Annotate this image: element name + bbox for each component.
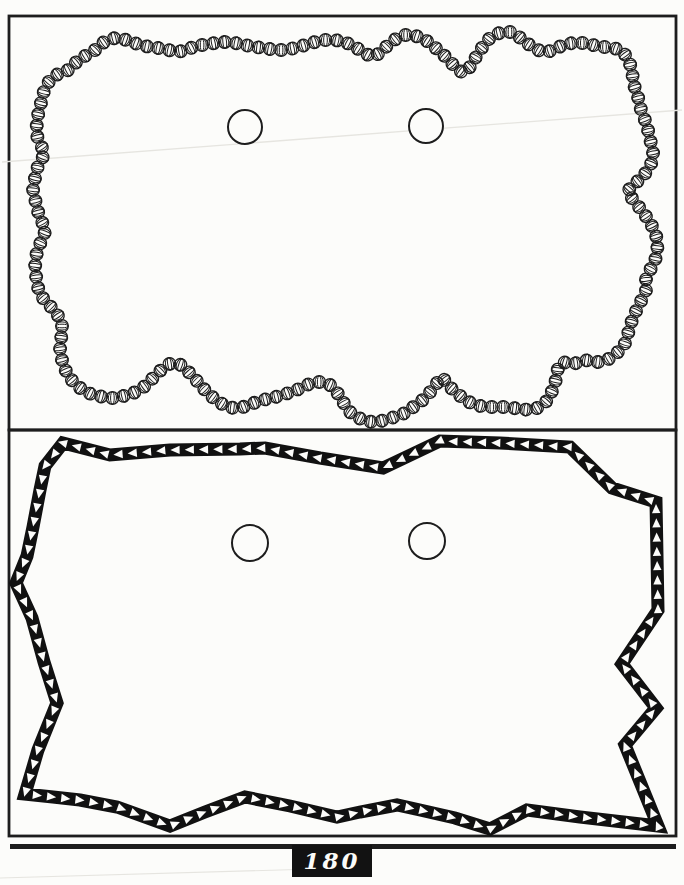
- bead: [342, 404, 360, 422]
- triangle-glyphs: [13, 436, 664, 834]
- bead: [537, 393, 555, 411]
- bead: [143, 370, 161, 388]
- bead: [530, 42, 547, 59]
- bead: [461, 394, 478, 411]
- bead: [329, 385, 347, 403]
- top-panel: [2, 16, 682, 430]
- bead: [452, 63, 470, 81]
- bead: [413, 391, 431, 409]
- bead: [196, 39, 209, 52]
- bead: [67, 54, 85, 72]
- bead: [436, 47, 454, 65]
- scanned-page: 180: [0, 0, 684, 885]
- bead: [377, 38, 395, 56]
- bead: [504, 26, 517, 39]
- bead: [630, 198, 648, 216]
- bead: [486, 401, 499, 414]
- bead: [497, 401, 510, 414]
- bead: [204, 388, 222, 406]
- bead: [637, 207, 655, 225]
- punch-holes-bottom: [232, 523, 445, 561]
- bead: [609, 343, 627, 361]
- bead: [106, 392, 119, 405]
- bead: [352, 410, 369, 427]
- bead: [467, 49, 484, 66]
- bottom-panel-frame: [9, 430, 676, 836]
- bead: [451, 387, 469, 405]
- bead: [195, 380, 213, 398]
- punch-holes-top: [228, 109, 443, 144]
- bead: [427, 39, 445, 57]
- bead: [576, 37, 589, 50]
- bead: [629, 173, 647, 191]
- punch-hole: [409, 523, 445, 559]
- bead: [71, 379, 89, 397]
- page-number-box: 180: [292, 845, 372, 877]
- punch-hole: [232, 525, 268, 561]
- bottom-panel: [9, 430, 676, 836]
- bead: [444, 55, 462, 73]
- triangle-band-border: [16, 441, 658, 829]
- bead: [180, 364, 198, 382]
- bead: [188, 372, 206, 390]
- bead: [335, 394, 352, 411]
- page-art: [0, 0, 684, 885]
- scan-artifact-line: [2, 110, 682, 162]
- top-panel-frame: [9, 16, 676, 430]
- punch-hole: [409, 109, 443, 143]
- bead: [77, 47, 94, 64]
- bead: [42, 298, 60, 316]
- bead: [421, 383, 439, 401]
- bead: [443, 380, 461, 398]
- bead: [428, 374, 446, 392]
- bead: [637, 165, 654, 182]
- bead: [151, 362, 169, 380]
- bead: [275, 44, 288, 57]
- bead: [598, 41, 611, 54]
- bead: [173, 357, 189, 373]
- page-number: 180: [303, 849, 360, 872]
- bead: [63, 371, 81, 389]
- bead: [319, 34, 332, 47]
- bead: [473, 39, 491, 57]
- punch-hole: [228, 110, 262, 144]
- bead: [404, 398, 422, 416]
- beaded-border: [26, 26, 664, 429]
